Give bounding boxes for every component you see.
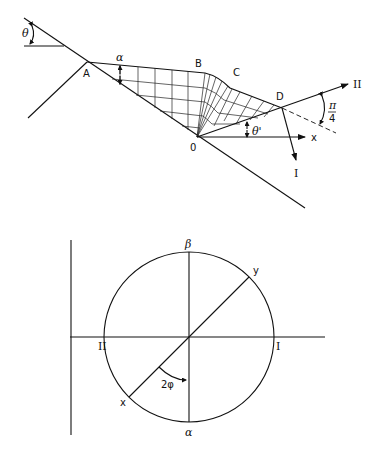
alpha-label: α bbox=[116, 51, 124, 64]
two-phi-label: 2φ bbox=[161, 379, 174, 390]
x-point-label: x bbox=[120, 397, 126, 408]
theta-label: θ bbox=[22, 27, 29, 40]
axis-I-arrow bbox=[282, 108, 296, 160]
axis-II-arrow bbox=[197, 84, 348, 137]
four-label: 4 bbox=[329, 113, 335, 124]
theta-angle-arc bbox=[30, 26, 34, 44]
pi-label: π bbox=[328, 99, 337, 112]
wedge-face-line bbox=[28, 62, 87, 118]
axis-II-label: II bbox=[353, 78, 362, 91]
dashed-extension-line bbox=[282, 108, 336, 133]
I-label-bottom: I bbox=[276, 340, 280, 353]
axis-I-label: I bbox=[294, 167, 298, 180]
free-surface-ABCD bbox=[87, 62, 282, 108]
x-axis-label: x bbox=[311, 132, 317, 143]
point-D-label: D bbox=[276, 91, 284, 102]
point-O-label: 0 bbox=[190, 142, 196, 153]
alpha-label-bottom: α bbox=[185, 426, 193, 439]
mohr-circle-figure: β α II I x y 2φ bbox=[70, 238, 325, 439]
point-C-label: C bbox=[233, 67, 240, 78]
II-label-bottom: II bbox=[98, 340, 107, 353]
beta-label: β bbox=[184, 238, 191, 251]
slip-line-diagram: θ α A B C D 0 θ' x I II π 4 β α II I x y… bbox=[0, 0, 380, 450]
point-A-label: A bbox=[83, 68, 90, 79]
top-figure: θ α A B C D 0 θ' x I II π 4 bbox=[22, 18, 362, 208]
pi-over-4-arc bbox=[320, 96, 325, 124]
theta-prime-label: θ' bbox=[252, 125, 262, 138]
point-B-label: B bbox=[195, 58, 202, 69]
inclined-surface-line bbox=[24, 18, 305, 208]
slip-line-mesh bbox=[112, 65, 274, 137]
y-point-label: y bbox=[253, 265, 259, 276]
